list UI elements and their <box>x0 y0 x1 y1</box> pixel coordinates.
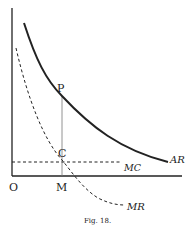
point-c-label: C <box>58 147 66 160</box>
figure-caption: Fig. 18. <box>84 217 111 225</box>
diagram-figure: P C AR MC O M MR Fig. 18. <box>0 0 195 227</box>
mr-label: MR <box>126 201 145 212</box>
ar-curve <box>24 23 168 162</box>
m-label: M <box>56 181 67 194</box>
point-p-label: P <box>57 82 65 95</box>
ar-label: AR <box>169 154 185 165</box>
mr-curve <box>16 48 125 205</box>
mc-label: MC <box>123 162 142 173</box>
origin-label: O <box>9 181 18 194</box>
